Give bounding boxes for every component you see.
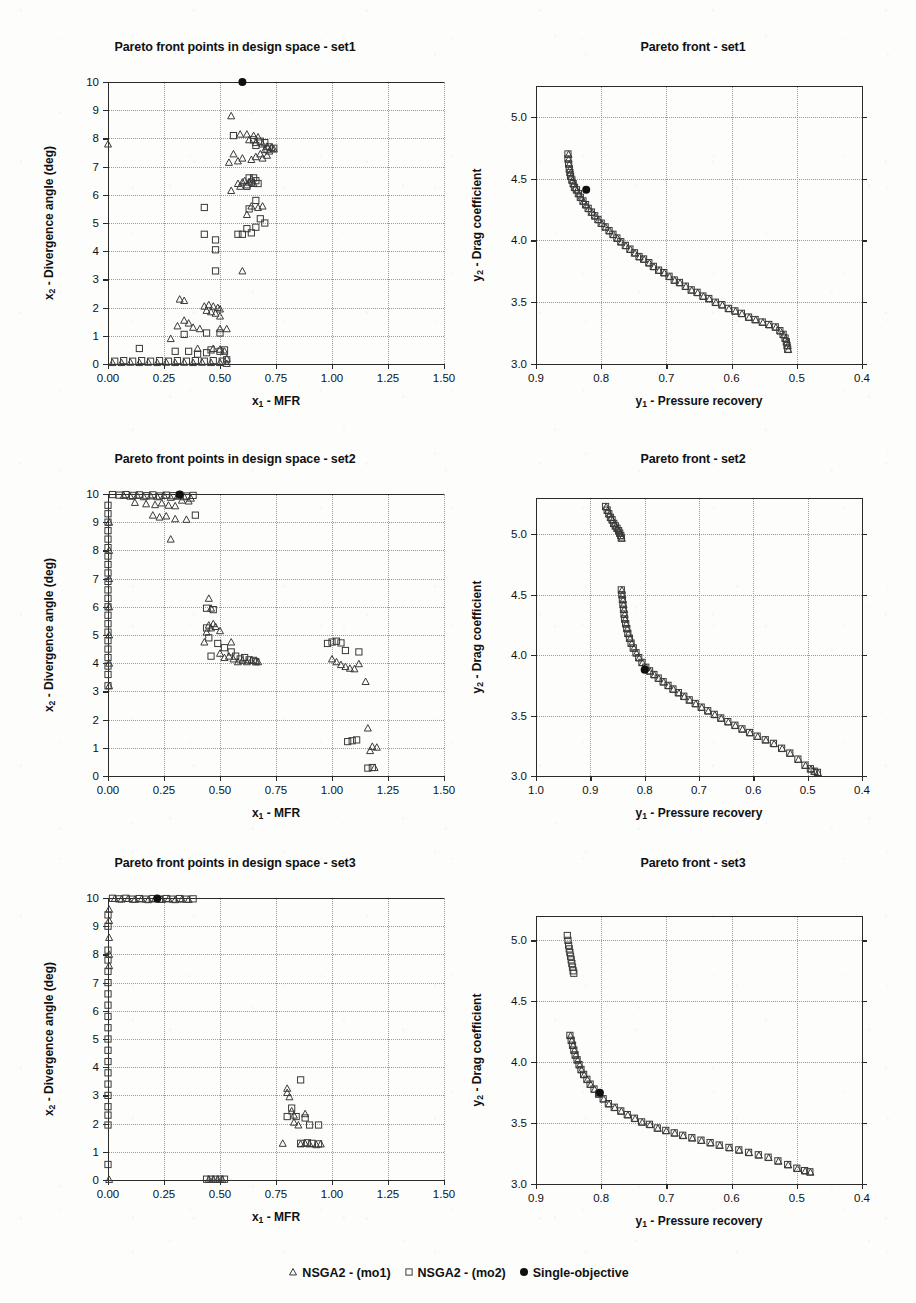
series-circle-filled [238, 78, 246, 86]
legend-item: NSGA2 - (mo1) [287, 1266, 390, 1281]
x-tick [601, 1184, 602, 1189]
gridline-vertical [444, 494, 445, 776]
legend-marker-triangle-up-open-icon [287, 1266, 299, 1281]
y-tick-label: 5 [56, 1033, 99, 1045]
x-tick [732, 1184, 733, 1189]
y-tick-label: 3 [56, 273, 99, 285]
x-tick [444, 1180, 445, 1185]
y-tick-label: 6 [56, 1005, 99, 1017]
series-circle-filled [153, 895, 161, 903]
x-tick [797, 364, 798, 369]
chart-panel-design-space-set3: Pareto front points in design space - se… [0, 856, 470, 1266]
y-axis-title: x2 - Divergence angle (deg) [42, 962, 57, 1116]
y-tick-label: 6 [56, 189, 99, 201]
y-tick-label: 1 [56, 330, 99, 342]
y-tick-right [862, 655, 867, 656]
series-both-open [565, 151, 792, 353]
chart-title: Pareto front points in design space - se… [0, 40, 470, 54]
y-tick-label: 3 [56, 1089, 99, 1101]
chart-panel-design-space-set1: Pareto front points in design space - se… [0, 40, 470, 450]
y-tick-right [862, 179, 867, 180]
x-tick [590, 776, 591, 781]
x-tick [332, 776, 333, 781]
legend-label: NSGA2 - (mo1) [302, 1266, 390, 1280]
y-tick-label: 2 [56, 302, 99, 314]
data-series-layer [108, 898, 444, 1180]
x-tick [276, 364, 277, 369]
y-tick-right [862, 240, 867, 241]
y-tick-right [862, 302, 867, 303]
x-tick [220, 776, 221, 781]
x-tick-label: 0.50 [209, 1188, 231, 1200]
y-tick-label: 4 [56, 1061, 99, 1073]
legend-marker-circle-filled-icon [518, 1266, 530, 1281]
x-tick-label: 0.6 [745, 784, 761, 796]
x-tick [164, 776, 165, 781]
x-tick [332, 1180, 333, 1185]
series-square-open [105, 895, 322, 1182]
x-tick [388, 776, 389, 781]
y-tick-label: 5.0 [484, 934, 527, 946]
x-tick-label: 0.7 [658, 1192, 674, 1204]
y-axis-title: x2 - Divergence angle (deg) [42, 558, 57, 712]
x-tick-label: 1.00 [321, 372, 343, 384]
x-tick-label: 0.7 [691, 784, 707, 796]
x-tick [732, 364, 733, 369]
y-tick [531, 776, 536, 777]
plot-right-border [862, 916, 863, 1184]
plot-area: 1.00.90.80.70.60.50.43.03.54.04.55.0 [536, 498, 862, 776]
x-tick-label: 0.5 [789, 372, 805, 384]
y-tick-right [862, 716, 867, 717]
x-tick-label: 0.00 [97, 784, 119, 796]
x-tick-label: 0.50 [209, 372, 231, 384]
legend-label: NSGA2 - (mo2) [418, 1266, 506, 1280]
y-tick-label: 3.5 [484, 1117, 527, 1129]
series-triangle-up-open [106, 492, 381, 771]
y-tick-right [862, 1184, 867, 1185]
y-tick-label: 6 [56, 601, 99, 613]
y-tick-label: 4.5 [484, 589, 527, 601]
y-tick-label: 4.0 [484, 649, 527, 661]
gridline-vertical [444, 898, 445, 1180]
y-tick-label: 8 [56, 948, 99, 960]
x-tick [536, 776, 537, 781]
y-axis-title: y2 - Drag coefficient [470, 581, 485, 694]
plot-area: 0.000.250.500.751.001.251.50012345678910 [108, 82, 444, 364]
x-tick-label: 0.4 [854, 372, 870, 384]
y-tick-label: 5 [56, 217, 99, 229]
legend-label: Single-objective [533, 1266, 629, 1280]
x-tick-label: 1.00 [321, 1188, 343, 1200]
chart-title: Pareto front - set1 [470, 40, 916, 54]
y-tick-label: 4 [56, 657, 99, 669]
x-tick-label: 0.6 [724, 372, 740, 384]
x-tick [666, 1184, 667, 1189]
x-tick [645, 776, 646, 781]
x-tick-label: 0.75 [265, 372, 287, 384]
x-axis-title: x1 - MFR [252, 806, 300, 821]
x-axis-title: x1 - MFR [252, 394, 300, 409]
y-tick-label: 5.0 [484, 111, 527, 123]
x-tick-label: 1.25 [377, 1188, 399, 1200]
x-tick [444, 776, 445, 781]
x-tick-label: 0.8 [593, 1192, 609, 1204]
x-tick [601, 364, 602, 369]
chart-title: Pareto front - set3 [470, 856, 916, 870]
x-tick [808, 776, 809, 781]
x-tick-label: 0.25 [153, 784, 175, 796]
y-tick-label: 7 [56, 161, 99, 173]
x-tick-label: 1.50 [433, 372, 455, 384]
plot-area: 0.000.250.500.751.001.251.50012345678910 [108, 898, 444, 1180]
data-series-layer [536, 916, 862, 1184]
x-tick-label: 0.9 [528, 1192, 544, 1204]
series-circle-filled [641, 666, 649, 674]
y-tick-label: 3.5 [484, 296, 527, 308]
y-tick-label: 3 [56, 685, 99, 697]
x-tick-label: 0.4 [854, 784, 870, 796]
y-tick-label: 4 [56, 245, 99, 257]
y-tick-label: 0 [56, 770, 99, 782]
legend-item: NSGA2 - (mo2) [403, 1266, 506, 1281]
x-axis-title: x1 - MFR [252, 1210, 300, 1225]
y-tick-right [862, 1062, 867, 1063]
x-tick [536, 1184, 537, 1189]
x-tick [108, 776, 109, 781]
